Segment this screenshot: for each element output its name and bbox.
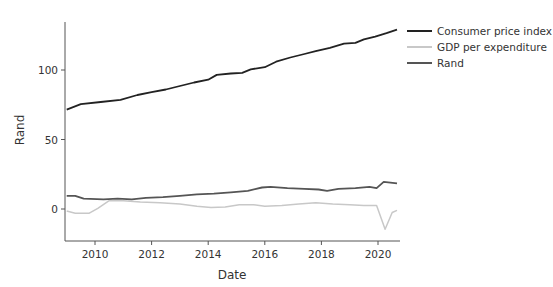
x-tick-2010: 2010 xyxy=(82,241,109,260)
x-tick-label: 2010 xyxy=(82,248,109,260)
series-line-gdp-per-expenditure xyxy=(67,201,397,230)
line-chart: 2010 2012 2014 2016 2018 2020 0 xyxy=(0,0,553,287)
legend-label: GDP per expenditure xyxy=(437,41,547,53)
y-tick-0: 0 xyxy=(51,203,65,215)
legend-item-cpi[interactable]: Consumer price index xyxy=(407,25,552,37)
x-tick-label: 2012 xyxy=(138,248,165,260)
x-tick-2018: 2018 xyxy=(308,241,335,260)
x-tick-label: 2014 xyxy=(195,248,222,260)
plot-area xyxy=(67,30,397,230)
x-tick-label: 2020 xyxy=(365,248,392,260)
x-tick-label: 2016 xyxy=(251,248,278,260)
y-tick-50: 50 xyxy=(45,134,65,146)
x-axis-ticks: 2010 2012 2014 2016 2018 2020 xyxy=(82,241,392,260)
legend-item-rand[interactable]: Rand xyxy=(407,57,464,69)
y-axis-label: Rand xyxy=(13,115,27,146)
x-tick-label: 2018 xyxy=(308,248,335,260)
legend-item-gdp[interactable]: GDP per expenditure xyxy=(407,41,547,53)
legend-label: Consumer price index xyxy=(437,25,552,37)
series-line-consumer-price-index xyxy=(67,30,397,110)
x-axis-label: Date xyxy=(218,268,247,282)
legend: Consumer price index GDP per expenditure… xyxy=(407,25,552,69)
x-tick-2016: 2016 xyxy=(251,241,278,260)
y-tick-label: 0 xyxy=(51,203,58,215)
x-tick-2020: 2020 xyxy=(365,241,392,260)
y-tick-label: 100 xyxy=(38,64,58,76)
x-tick-2012: 2012 xyxy=(138,241,165,260)
y-tick-100: 100 xyxy=(38,64,65,76)
y-axis-ticks: 0 50 100 xyxy=(38,64,65,215)
series-line-rand xyxy=(67,182,397,199)
x-tick-2014: 2014 xyxy=(195,241,222,260)
y-tick-label: 50 xyxy=(45,134,58,146)
legend-label: Rand xyxy=(437,57,464,69)
